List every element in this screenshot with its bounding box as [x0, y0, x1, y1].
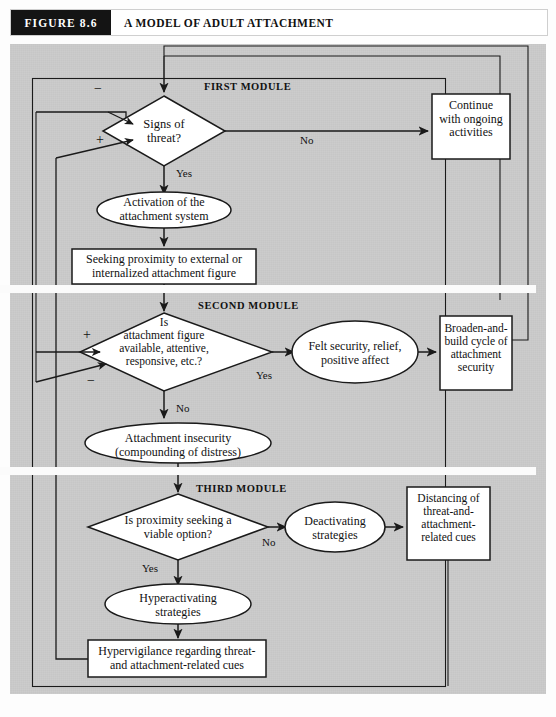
- edge-label-viable-yes: Yes: [142, 562, 158, 574]
- node-continue-shape: [432, 94, 510, 159]
- module-label-first: FIRST MODULE: [204, 81, 291, 92]
- edge-label-viable-no: No: [262, 536, 275, 548]
- module-separator-2: [0, 467, 536, 475]
- figure-page: FIGURE 8.6 A MODEL OF ADULT ATTACHMENT: [0, 0, 556, 717]
- edge-label-threat-no: No: [300, 134, 313, 146]
- node-distancing-shape: [407, 487, 490, 560]
- sign-plus-threat: +: [96, 133, 104, 147]
- sign-minus-available: −: [87, 374, 95, 388]
- node-signs-of-threat-shape: [103, 96, 225, 166]
- module-separator-1: [0, 285, 536, 293]
- node-broaden-shape: [440, 316, 512, 390]
- node-felt-security-shape: [292, 321, 418, 383]
- node-insecurity-shape: [85, 423, 271, 463]
- feedback-rail-minus-available: [36, 364, 106, 382]
- feedback-rail-minus-threat: [36, 112, 126, 118]
- node-deactivating-shape: [285, 502, 385, 552]
- node-figure-available-shape: [80, 313, 272, 391]
- edge-label-available-yes: Yes: [256, 369, 272, 381]
- feedback-rail-plus-threat: [56, 158, 88, 659]
- node-seeking-shape: [72, 249, 256, 284]
- sign-minus-threat: −: [94, 82, 102, 96]
- node-activation-shape: [97, 192, 231, 228]
- edge-label-threat-yes: Yes: [176, 167, 192, 179]
- feedback-rail-plus-threat-arrow: [56, 140, 133, 158]
- flowchart-diagram: [0, 0, 556, 717]
- node-proximity-viable-shape: [88, 494, 268, 560]
- sign-plus-available: +: [83, 328, 91, 342]
- edge-label-available-no: No: [176, 402, 189, 414]
- node-hypervigilance-shape: [88, 640, 266, 677]
- module-label-second: SECOND MODULE: [198, 300, 299, 311]
- node-hyperactivating-shape: [105, 584, 251, 624]
- module-label-third: THIRD MODULE: [196, 483, 287, 494]
